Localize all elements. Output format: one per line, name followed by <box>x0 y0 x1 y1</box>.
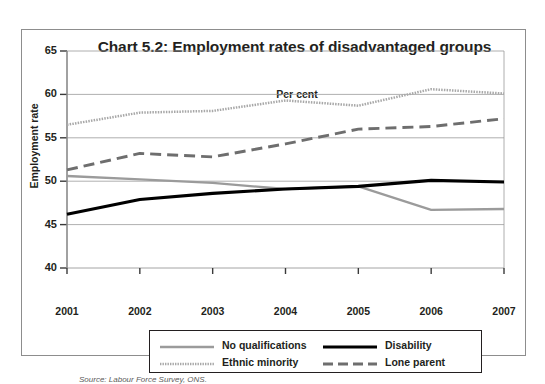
legend-item-disability: Disability <box>322 337 432 353</box>
y-axis-tick-label: 60 <box>27 87 57 99</box>
y-axis-tick-label: 65 <box>27 44 57 56</box>
legend-item-ethnic-minority: Ethnic minority <box>159 354 298 370</box>
x-axis-tick-label: 2005 <box>328 305 388 317</box>
series-line <box>67 119 504 170</box>
legend-item-no-qualifications: No qualifications <box>159 337 307 353</box>
legend-label-ethnic-minority: Ethnic minority <box>222 356 298 368</box>
legend-label-lone-parent: Lone parent <box>385 356 445 368</box>
y-axis-tick-label: 40 <box>27 261 57 273</box>
legend-label-no-qualifications: No qualifications <box>222 339 307 351</box>
y-axis-tick-label: 55 <box>27 131 57 143</box>
x-axis-tick-label: 2002 <box>110 305 170 317</box>
line-swatch-icon <box>159 339 215 351</box>
y-axis-tick-label: 45 <box>27 218 57 230</box>
legend-label-disability: Disability <box>385 339 432 351</box>
chart-figure-panel: Chart 5.2: Employment rates of disadvant… <box>21 29 526 356</box>
source-note: Source: Labour Force Survey, ONS. <box>79 375 207 384</box>
y-axis-tick-label: 50 <box>27 174 57 186</box>
chart-legend: No qualifications Disability Ethnic mino… <box>149 330 482 373</box>
x-axis-tick-label: 2001 <box>37 305 97 317</box>
x-axis-tick-label: 2006 <box>401 305 461 317</box>
line-swatch-icon <box>322 339 378 351</box>
dotted-line-swatch-icon <box>159 356 215 368</box>
x-axis-tick-label: 2004 <box>256 305 316 317</box>
dashed-line-swatch-icon <box>322 356 378 368</box>
legend-item-lone-parent: Lone parent <box>322 354 445 370</box>
x-axis-tick-label: 2003 <box>183 305 243 317</box>
x-axis-tick-label: 2007 <box>474 305 534 317</box>
